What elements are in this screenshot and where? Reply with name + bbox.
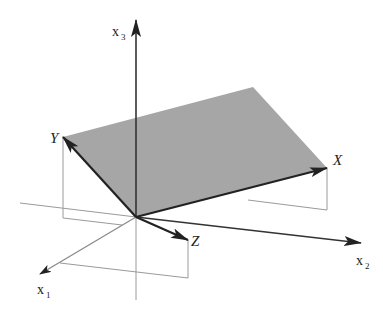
diagram-canvas: X Y Z x 3 x 2 x 1	[0, 0, 383, 314]
x3-axis-label: x 3	[112, 24, 126, 42]
x3-label-subscript: 3	[121, 32, 126, 42]
vector-y-label: Y	[50, 130, 60, 146]
vector-x-label: X	[332, 152, 343, 168]
x2-label-main: x	[356, 253, 363, 268]
x2-axis-label: x 2	[356, 253, 370, 271]
x3-label-main: x	[112, 24, 119, 39]
x1-label-subscript: 1	[46, 290, 51, 300]
x2-axis	[136, 217, 361, 243]
x2-label-subscript: 2	[365, 261, 370, 271]
x1-axis	[40, 217, 136, 274]
vector-z-label: Z	[191, 233, 200, 249]
x1-label-main: x	[37, 282, 44, 297]
span-plane	[63, 87, 327, 217]
x2-negative-guide	[20, 203, 136, 217]
x1-axis-label: x 1	[37, 282, 51, 300]
z-projection-guide	[60, 240, 188, 278]
